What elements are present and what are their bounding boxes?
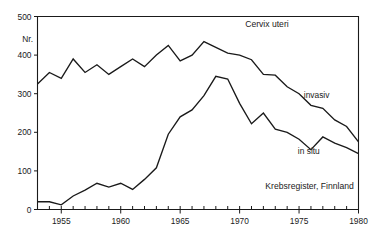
y-tick-label: 500 xyxy=(18,12,32,22)
y-tick-label: 0 xyxy=(27,205,32,215)
y-tick-label: 200 xyxy=(18,127,32,137)
chart-figure: 0100200300400500 Nr. 1955196019651970197… xyxy=(0,0,374,245)
x-tick-label: 1980 xyxy=(349,216,368,226)
series-label-in-situ: in situ xyxy=(298,146,320,156)
x-tick-label: 1975 xyxy=(290,216,309,226)
y-axis-unit-label: Nr. xyxy=(22,34,33,44)
series-label-invasiv: invasiv xyxy=(304,90,330,100)
y-tick-label: 100 xyxy=(18,166,32,176)
x-tick-label: 1965 xyxy=(171,216,190,226)
y-tick-label: 300 xyxy=(18,89,32,99)
chart-background xyxy=(0,0,374,245)
x-tick-label: 1960 xyxy=(111,216,130,226)
x-tick-label: 1955 xyxy=(52,216,71,226)
chart-title-label: Cervix uteri xyxy=(245,19,289,29)
y-tick-label: 400 xyxy=(18,50,32,60)
source-label: Krebsregister, Finnland xyxy=(265,181,354,191)
cervix-uteri-line-chart: 0100200300400500 Nr. 1955196019651970197… xyxy=(0,0,374,245)
x-tick-label: 1970 xyxy=(230,216,249,226)
